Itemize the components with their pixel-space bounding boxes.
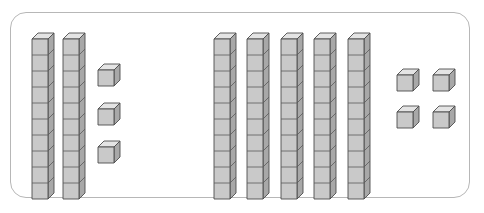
tens-rod [280, 32, 302, 200]
unit-cube [396, 105, 418, 127]
unit-cube [396, 68, 418, 90]
right-number [0, 0, 484, 213]
unit-cube [432, 105, 454, 127]
unit-cube [432, 68, 454, 90]
tens-rod [313, 32, 335, 200]
base-ten-blocks-figure [0, 0, 484, 213]
tens-rod [347, 32, 369, 200]
tens-rod [213, 32, 235, 200]
tens-rod [246, 32, 268, 200]
